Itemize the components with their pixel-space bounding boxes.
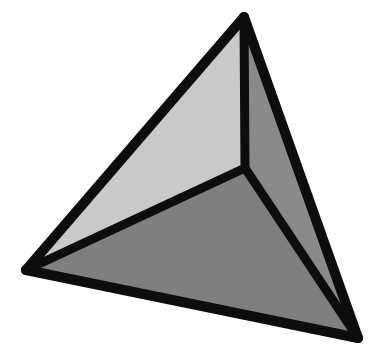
figure-canvas	[0, 0, 385, 363]
edge-apex-interior	[244, 17, 245, 168]
vertex-interior	[241, 164, 250, 173]
vertex-left	[22, 266, 31, 275]
vertex-apex	[240, 13, 249, 22]
vertex-bottom-right	[354, 334, 363, 343]
tetrahedron-diagram	[0, 0, 385, 363]
